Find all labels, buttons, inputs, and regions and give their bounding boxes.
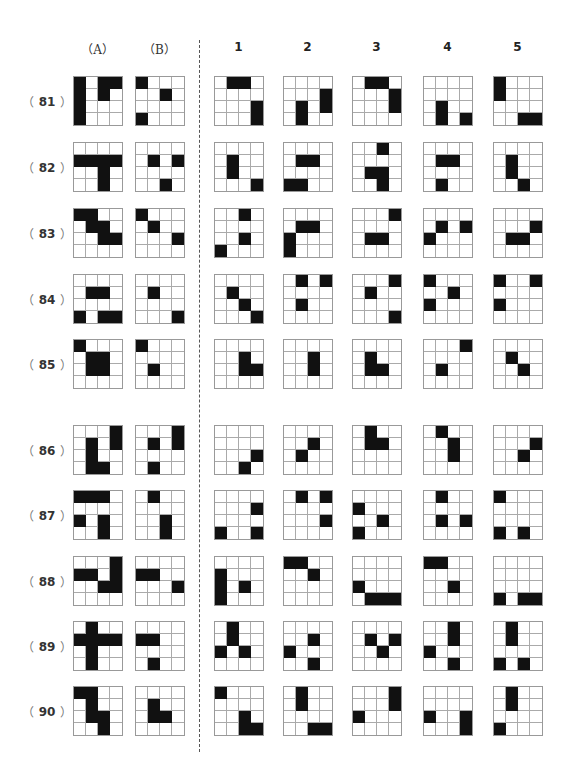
paren-open: （ — [22, 638, 34, 655]
answer-option-3-grid[interactable] — [352, 425, 402, 475]
filled-cell — [353, 503, 365, 515]
empty-cell — [215, 233, 227, 245]
answer-option-1-grid[interactable] — [214, 686, 264, 736]
answer-option-2-grid[interactable] — [283, 208, 333, 258]
empty-cell — [172, 364, 184, 376]
empty-cell — [308, 376, 320, 388]
empty-cell — [136, 593, 148, 605]
answer-option-1-grid[interactable] — [214, 142, 264, 192]
answer-option-3-grid[interactable] — [352, 142, 402, 192]
answer-option-3-grid[interactable] — [352, 76, 402, 126]
answer-option-4-grid[interactable] — [423, 142, 473, 192]
empty-cell — [389, 155, 401, 167]
question-number-text: 85 — [39, 358, 56, 372]
filled-cell — [98, 364, 110, 376]
empty-cell — [518, 687, 530, 699]
empty-cell — [227, 711, 239, 723]
filled-cell — [494, 527, 506, 539]
empty-cell — [136, 245, 148, 257]
answer-option-2-grid[interactable] — [283, 142, 333, 192]
answer-option-3-grid[interactable] — [352, 208, 402, 258]
empty-cell — [518, 275, 530, 287]
answer-option-2-grid[interactable] — [283, 621, 333, 671]
empty-cell — [460, 167, 472, 179]
column-header-option-3: 3 — [352, 40, 401, 54]
empty-cell — [518, 581, 530, 593]
answer-option-1-grid[interactable] — [214, 490, 264, 540]
answer-option-3-grid[interactable] — [352, 556, 402, 606]
filled-cell — [239, 352, 251, 364]
empty-cell — [110, 622, 122, 634]
empty-cell — [98, 376, 110, 388]
empty-cell — [320, 527, 332, 539]
answer-option-5-grid[interactable] — [493, 686, 543, 736]
answer-option-3-grid[interactable] — [352, 339, 402, 389]
empty-cell — [74, 723, 86, 735]
answer-option-3-grid[interactable] — [352, 490, 402, 540]
filled-cell — [98, 311, 110, 323]
answer-option-5-grid[interactable] — [493, 556, 543, 606]
answer-option-5-grid[interactable] — [493, 142, 543, 192]
answer-option-1-grid[interactable] — [214, 339, 264, 389]
empty-cell — [436, 593, 448, 605]
answer-option-5-grid[interactable] — [493, 208, 543, 258]
answer-option-5-grid[interactable] — [493, 490, 543, 540]
empty-cell — [148, 557, 160, 569]
answer-option-4-grid[interactable] — [423, 621, 473, 671]
answer-option-5-grid[interactable] — [493, 425, 543, 475]
empty-cell — [530, 491, 542, 503]
answer-option-1-grid[interactable] — [214, 425, 264, 475]
empty-cell — [494, 167, 506, 179]
answer-option-3-grid[interactable] — [352, 686, 402, 736]
answer-option-4-grid[interactable] — [423, 76, 473, 126]
answer-option-4-grid[interactable] — [423, 425, 473, 475]
empty-cell — [136, 491, 148, 503]
filled-cell — [86, 450, 98, 462]
answer-option-2-grid[interactable] — [283, 686, 333, 736]
filled-cell — [308, 634, 320, 646]
answer-option-5-grid[interactable] — [493, 274, 543, 324]
answer-option-5-grid[interactable] — [493, 621, 543, 671]
answer-option-4-grid[interactable] — [423, 686, 473, 736]
empty-cell — [136, 687, 148, 699]
answer-option-1-grid[interactable] — [214, 274, 264, 324]
filled-cell — [74, 491, 86, 503]
empty-cell — [377, 311, 389, 323]
answer-option-1-grid[interactable] — [214, 208, 264, 258]
answer-option-4-grid[interactable] — [423, 556, 473, 606]
empty-cell — [365, 143, 377, 155]
empty-cell — [284, 687, 296, 699]
answer-option-4-grid[interactable] — [423, 274, 473, 324]
answer-option-1-grid[interactable] — [214, 76, 264, 126]
answer-option-5-grid[interactable] — [493, 76, 543, 126]
filled-cell — [389, 634, 401, 646]
empty-cell — [215, 364, 227, 376]
answer-option-4-grid[interactable] — [423, 339, 473, 389]
filled-cell — [251, 450, 263, 462]
empty-cell — [251, 426, 263, 438]
empty-cell — [424, 376, 436, 388]
empty-cell — [530, 622, 542, 634]
answer-option-1-grid[interactable] — [214, 556, 264, 606]
answer-option-3-grid[interactable] — [352, 621, 402, 671]
answer-option-2-grid[interactable] — [283, 274, 333, 324]
answer-option-3-grid[interactable] — [352, 274, 402, 324]
empty-cell — [251, 569, 263, 581]
answer-option-4-grid[interactable] — [423, 490, 473, 540]
empty-cell — [160, 426, 172, 438]
answer-option-2-grid[interactable] — [283, 425, 333, 475]
answer-option-4-grid[interactable] — [423, 208, 473, 258]
answer-option-2-grid[interactable] — [283, 76, 333, 126]
answer-option-1-grid[interactable] — [214, 621, 264, 671]
empty-cell — [389, 113, 401, 125]
answer-option-2-grid[interactable] — [283, 490, 333, 540]
empty-cell — [172, 340, 184, 352]
answer-option-2-grid[interactable] — [283, 556, 333, 606]
answer-option-2-grid[interactable] — [283, 339, 333, 389]
empty-cell — [377, 491, 389, 503]
empty-cell — [353, 101, 365, 113]
empty-cell — [136, 221, 148, 233]
answer-option-5-grid[interactable] — [493, 339, 543, 389]
empty-cell — [284, 113, 296, 125]
empty-cell — [160, 462, 172, 474]
